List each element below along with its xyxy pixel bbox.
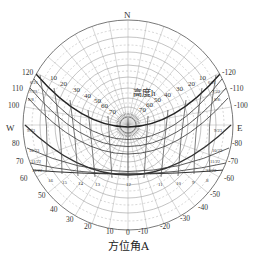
svg-text:100: 100	[8, 101, 20, 110]
north-label: N	[124, 10, 131, 20]
svg-text:11/22: 11/22	[210, 159, 220, 164]
svg-text:20: 20	[188, 80, 196, 88]
svg-text:60: 60	[101, 102, 109, 110]
svg-text:60: 60	[146, 101, 154, 109]
svg-text:10: 10	[199, 74, 207, 82]
svg-text:80: 80	[12, 139, 20, 148]
svg-text:11/22: 11/22	[31, 159, 41, 164]
svg-text:13: 13	[95, 182, 101, 187]
svg-text:7/23: 7/23	[212, 89, 221, 94]
svg-text:30: 30	[176, 85, 184, 93]
svg-text:6/21: 6/21	[30, 80, 38, 85]
azimuth-zero-tick: 0	[126, 228, 130, 237]
svg-text:-50: -50	[210, 190, 220, 199]
svg-text:9/23: 9/23	[214, 128, 223, 133]
svg-text:8/8: 8/8	[214, 97, 221, 102]
svg-text:10: 10	[50, 74, 58, 82]
svg-text:-40: -40	[198, 203, 208, 212]
svg-text:10/23: 10/23	[212, 148, 223, 153]
svg-text:40: 40	[50, 205, 58, 214]
svg-text:15: 15	[62, 180, 68, 185]
svg-text:-10: -10	[138, 227, 148, 236]
east-label: E	[237, 123, 243, 133]
svg-text:20: 20	[84, 222, 92, 231]
svg-text:10/23: 10/23	[29, 148, 40, 153]
svg-text:50: 50	[38, 191, 46, 200]
svg-text:10: 10	[176, 181, 182, 186]
hour-labels: 16 15 14 13 12 11 10 9 8	[48, 178, 209, 187]
svg-text:70: 70	[16, 157, 24, 166]
svg-text:-20: -20	[160, 222, 170, 231]
svg-text:40: 40	[164, 91, 172, 99]
svg-text:60: 60	[20, 174, 28, 183]
svg-text:14: 14	[78, 181, 84, 186]
svg-text:110: 110	[12, 84, 23, 93]
svg-text:6/21: 6/21	[208, 80, 216, 85]
svg-text:120: 120	[22, 68, 34, 77]
svg-text:-30: -30	[180, 214, 190, 223]
sun-path-diagram: N W E 高度h 10 20 30 40 50 60 70 10 20 30 …	[0, 0, 256, 259]
svg-text:16: 16	[48, 178, 54, 183]
svg-text:7/23: 7/23	[29, 89, 38, 94]
west-label: W	[6, 123, 15, 133]
svg-text:30: 30	[73, 86, 81, 94]
azimuth-axis-label: 方位角A	[108, 237, 149, 253]
svg-text:40: 40	[84, 92, 92, 100]
svg-text:8: 8	[206, 178, 209, 183]
svg-text:8/8: 8/8	[28, 97, 35, 102]
svg-text:-100: -100	[234, 101, 248, 110]
azimuth-ticks-left: 120 110 100 80 70 60 50 40 30 20 10	[8, 68, 114, 236]
svg-text:-60: -60	[224, 174, 234, 183]
svg-text:-110: -110	[230, 84, 244, 93]
svg-text:-80: -80	[232, 139, 242, 148]
svg-text:9/23: 9/23	[27, 128, 36, 133]
svg-text:-120: -120	[222, 68, 236, 77]
svg-text:12: 12	[126, 182, 132, 187]
svg-text:12/22: 12/22	[32, 168, 42, 173]
svg-text:12/22: 12/22	[206, 168, 216, 173]
svg-text:70: 70	[109, 108, 117, 116]
svg-text:-70: -70	[228, 157, 238, 166]
svg-text:70: 70	[139, 106, 147, 114]
svg-text:20: 20	[60, 80, 68, 88]
svg-text:50: 50	[154, 96, 162, 104]
altitude-axis-label: 高度h	[133, 87, 156, 98]
svg-text:30: 30	[66, 215, 74, 224]
svg-text:10: 10	[106, 227, 114, 236]
svg-text:11: 11	[158, 182, 163, 187]
